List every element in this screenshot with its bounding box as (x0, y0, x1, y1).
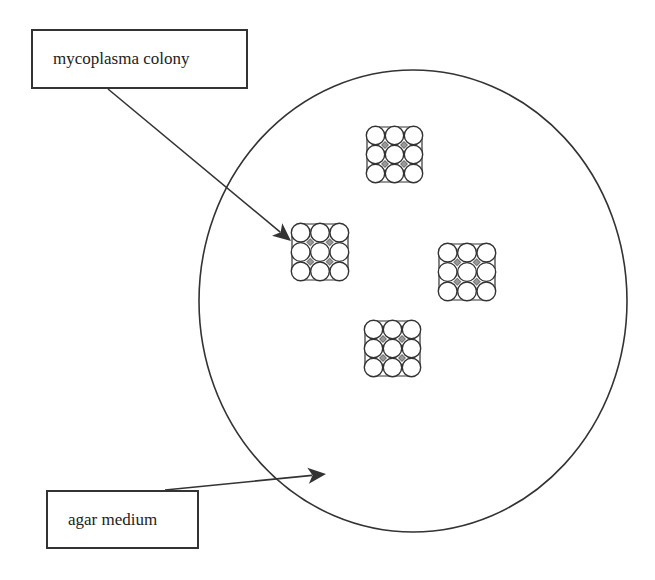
mycoplasma-cell (402, 320, 420, 338)
mycoplasma-cell (330, 223, 349, 242)
mycoplasma-cell (385, 145, 403, 163)
mycoplasma-cell (291, 243, 310, 262)
colonies-group (291, 126, 495, 376)
agar-medium-label: agar medium (68, 510, 157, 530)
mycoplasma-cell (364, 358, 382, 376)
mycoplasma-colony-label: mycoplasma colony (53, 49, 189, 69)
mycoplasma-cell (330, 262, 349, 281)
colony-right (438, 243, 495, 300)
mycoplasma-cell (477, 263, 496, 282)
mycoplasma-cell (311, 262, 330, 281)
agar-medium-label-box: agar medium (46, 490, 199, 549)
mycoplasma-cell (477, 243, 496, 262)
mycoplasma-cell (438, 263, 457, 282)
mycoplasma-cell (404, 145, 422, 163)
mycoplasma-cell (458, 243, 477, 262)
mycoplasma-cell (366, 145, 384, 163)
mycoplasma-cell (366, 126, 384, 144)
mycoplasma-cell (404, 126, 422, 144)
mycoplasma-cell (366, 164, 384, 182)
mycoplasma-cell (402, 358, 420, 376)
mycoplasma-cell (458, 263, 477, 282)
mycoplasma-cell (385, 126, 403, 144)
mycoplasma-cell (364, 339, 382, 357)
mycoplasma-cell (311, 223, 330, 242)
colony-pointer-arrow (108, 89, 280, 232)
mycoplasma-cell (291, 223, 310, 242)
mycoplasma-cell (311, 243, 330, 262)
mycoplasma-cell (404, 164, 422, 182)
agar-pointer-arrow (165, 475, 312, 490)
arrows-group (108, 89, 326, 490)
mycoplasma-cell (364, 320, 382, 338)
colony-top (366, 126, 422, 182)
mycoplasma-cell (458, 282, 477, 301)
mycoplasma-cell (383, 358, 401, 376)
mycoplasma-cell (402, 339, 420, 357)
colony-bottom (364, 320, 420, 376)
mycoplasma-cell (385, 164, 403, 182)
mycoplasma-cell (477, 282, 496, 301)
mycoplasma-cell (438, 282, 457, 301)
mycoplasma-colony-label-box: mycoplasma colony (31, 29, 248, 89)
mycoplasma-cell (438, 243, 457, 262)
mycoplasma-cell (330, 243, 349, 262)
arrowhead-icon (272, 223, 291, 241)
colony-left (291, 223, 348, 280)
mycoplasma-cell (383, 339, 401, 357)
mycoplasma-cell (383, 320, 401, 338)
mycoplasma-cell (291, 262, 310, 281)
